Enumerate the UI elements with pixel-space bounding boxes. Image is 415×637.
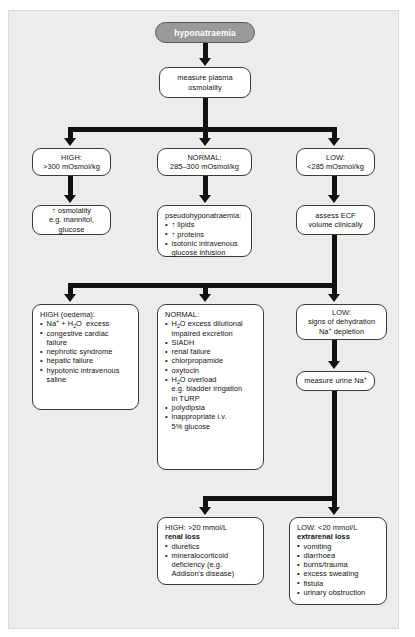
list-item: chlorpropamide [165,356,257,365]
list-item: hypotonic intravenous [40,366,132,375]
assess-ecf-line-2: volume clinically [308,220,362,229]
node-extrarenal-loss: LOW: <20 mmol/L extrarenal loss vomiting… [289,517,387,605]
node-measure-plasma-osmolality: measure plasma osmolality [159,67,251,98]
list-item: renal failure [165,347,257,356]
node-measure-urine-sodium: measure urine Na+ [296,371,375,391]
extrarenal-loss-item-list: vomiting diarrhoea burns/trauma excess s… [297,542,380,598]
list-item: vomiting [297,542,380,551]
list-item-continuation: e.g. bladder irrigation [165,384,257,393]
list-item: urinary obstruction [297,588,380,597]
list-item-continuation: deficiency (e.g. [165,560,257,569]
low-dehydration-line-2: signs of dehydration [308,317,375,326]
diagram-page: hyponatraemia measure plasma osmolality … [0,0,415,637]
node-low-osmolality: LOW: <285 mOsmol/kg [296,148,375,176]
node-low-dehydration: LOW: signs of dehydration Na+ depletion [296,304,387,340]
arrowhead-assess-ecf [328,195,340,203]
list-item: ↑ lipids [165,220,245,229]
connector-low-osm-down [332,176,337,197]
arrowhead-high-oedema [64,294,76,302]
arrowhead-high-osm [64,138,76,146]
list-item: fistula [297,579,380,588]
pseudo-header: pseudohyponatraemia: [165,211,245,220]
normal-osm-line-2: 285–300 mOsmol/kg [170,162,239,171]
list-item: H2O excess dilutional [165,319,257,328]
list-item: congestive cardiac [40,329,132,338]
list-item-continuation: 5% glucose [165,422,257,431]
node-high-oedema: HIGH (oedema): Na+ + H2O excess congesti… [32,304,139,410]
list-item-continuation: in TURP [165,394,257,403]
low-dehydration-line-1: LOW: [332,308,351,317]
list-item: H2O overload [165,375,257,384]
low-osm-line-2: <285 mOsmol/kg [307,162,364,171]
extrarenal-loss-header-title: extrarenal loss [297,532,380,541]
arrowhead-root-to-osmolality [199,58,211,66]
arrowhead-pseudo [199,195,211,203]
low-osm-line-1: LOW: [326,153,345,162]
assess-ecf-line-1: assess ECF [315,211,355,220]
list-item: oxytocin [165,366,257,375]
connector-ecf-stem [332,235,337,288]
arrowhead-normal-group [199,294,211,302]
node-assess-ecf: assess ECF volume clinically [296,205,375,235]
raised-osmolality-line-2: e.g. mannitol, glucose [37,215,106,234]
node-normal-osmolality: NORMAL: 285–300 mOsmol/kg [157,148,252,176]
node-hyponatraemia: hyponatraemia [155,22,255,43]
high-osm-line-2: >300 mOsmol/kg [43,162,100,171]
connector-dehydration-to-urine [332,340,337,363]
arrowhead-low-group [328,294,340,302]
list-item: Na+ + H2O excess [40,319,132,328]
normal-osm-line-1: NORMAL: [187,153,221,162]
node-normal-causes: NORMAL: H2O excess dilutional impaired e… [157,304,264,470]
list-item: diuretics [165,542,257,551]
measure-osmolality-line-2: osmolality [188,83,221,92]
list-item-continuation: impaired excretion [165,329,257,338]
high-osm-line-1: HIGH: [61,153,82,162]
high-oedema-header: HIGH (oedema): [40,310,132,319]
arrowhead-renal-loss [199,507,211,515]
list-item: ↑ proteins [165,230,245,239]
list-item-continuation: failure [40,338,132,347]
normal-causes-header: NORMAL: [165,310,257,319]
node-pseudohyponatraemia: pseudohyponatraemia: ↑ lipids ↑ proteins… [157,205,252,257]
normal-causes-item-list: H2O excess dilutional impaired excretion… [165,319,257,431]
list-item: burns/trauma [297,560,380,569]
arrowhead-low-osm [328,138,340,146]
diagram-panel: hyponatraemia measure plasma osmolality … [8,10,399,629]
connector-urine-stem [332,391,337,501]
node-renal-loss: HIGH: >20 mmol/L renal loss diuretics mi… [157,517,264,585]
list-item: diarrhoea [297,551,380,560]
high-oedema-item-list: Na+ + H2O excess congestive cardiac fail… [40,319,132,384]
measure-urine-sodium-label: measure urine Na+ [304,376,367,385]
renal-loss-header-values: HIGH: >20 mmol/L [165,523,257,532]
list-item: SIADH [165,338,257,347]
connector-osmolality-stem [203,98,208,130]
list-item: hepatic failure [40,356,132,365]
list-item: polydipsia [165,403,257,412]
node-raised-osmolality: ↑ osmolality e.g. mannitol, glucose [32,205,111,235]
raised-osmolality-line-1: ↑ osmolality [52,206,91,215]
node-high-osmolality: HIGH: >300 mOsmol/kg [32,148,111,176]
pseudo-item-list: ↑ lipids ↑ proteins isotonic intravenous… [165,220,245,257]
low-dehydration-line-3: Na+ depletion [319,327,364,336]
renal-loss-item-list: diuretics mineralocorticoid deficiency (… [165,542,257,579]
measure-osmolality-line-1: measure plasma [177,73,232,82]
arrowhead-normal-osm [199,138,211,146]
extrarenal-loss-header-values: LOW: <20 mmol/L [297,523,380,532]
list-item: isotonic intravenous [165,239,245,248]
arrowhead-measure-urine [328,361,340,369]
arrowhead-extrarenal-loss [328,507,340,515]
arrowhead-osmolality-raised [64,195,76,203]
connector-high-osm-down [68,176,73,197]
list-item-continuation: glucose infusion [165,248,245,257]
node-hyponatraemia-label: hyponatraemia [174,28,236,38]
connector-split-bar-bottom [203,496,338,501]
list-item: mineralocorticoid [165,551,257,560]
connector-normal-osm-down [203,176,208,197]
list-item: nephrotic syndrome [40,347,132,356]
list-item: excess sweating [297,569,380,578]
list-item-continuation: Addison's disease) [165,569,257,578]
list-item: inappropriate i.v. [165,412,257,421]
list-item-continuation: saline [40,375,132,384]
renal-loss-header-title: renal loss [165,532,257,541]
